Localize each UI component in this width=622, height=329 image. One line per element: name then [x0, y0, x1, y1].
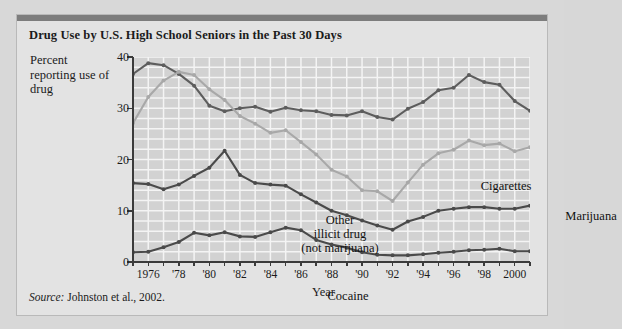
source-text: Johnston et al., 2002.: [64, 291, 165, 303]
x-tick-mark: [178, 262, 180, 266]
x-tick-mark: [209, 262, 211, 266]
x-tick-mark: [407, 262, 409, 266]
series-label-cigarettes: Cigarettes: [461, 179, 551, 194]
x-tick-mark: [346, 262, 348, 266]
source-note: Source: Johnston et al., 2002.: [29, 291, 165, 303]
x-tick-mark: [285, 262, 287, 266]
x-tick-mark: [422, 262, 424, 266]
x-tick-mark: [148, 262, 150, 266]
x-tick-mark: [193, 262, 195, 266]
figure-frame: Drug Use by U.S. High School Seniors in …: [16, 14, 548, 316]
series-label-other-line2: illicit drug: [314, 227, 366, 241]
x-tick-label: 2000: [495, 268, 535, 280]
x-tick-mark: [499, 262, 501, 266]
y-tick-label: 20: [89, 153, 129, 168]
y-tick-label: 40: [89, 50, 129, 65]
x-tick-mark: [239, 262, 241, 266]
x-tick-mark: [392, 262, 394, 266]
x-tick-mark: [483, 262, 485, 266]
page-title: Drug Use by U.S. High School Seniors in …: [29, 28, 342, 43]
x-tick-mark: [468, 262, 470, 266]
series-label-cocaine: Cocaine: [313, 289, 383, 304]
y-tick-label: 0: [89, 255, 129, 270]
x-tick-mark: [453, 262, 455, 266]
x-tick-mark: [224, 262, 226, 266]
plot-wrapper: 010203040 1976'78'80'82'84'86'88'90'92'9…: [117, 57, 530, 269]
x-tick-mark: [254, 262, 256, 266]
x-tick-mark: [438, 262, 440, 266]
x-tick-mark: [163, 262, 165, 266]
x-tick-mark: [270, 262, 272, 266]
x-tick-mark: [377, 262, 379, 266]
x-tick-mark: [331, 262, 333, 266]
series-label-other-illicit: Other illicit drug (not marijuana): [285, 213, 395, 255]
x-tick-mark: [361, 262, 363, 266]
x-tick-mark: [514, 262, 516, 266]
title-rule: [17, 15, 547, 21]
x-tick-mark: [132, 262, 134, 266]
series-label-other-line3: (not marijuana): [301, 241, 378, 255]
x-tick-mark: [315, 262, 317, 266]
series-label-other-line1: Other: [326, 213, 354, 227]
series-label-marijuana: Marijuana: [549, 209, 622, 224]
x-tick-mark: [300, 262, 302, 266]
y-tick-label: 10: [89, 204, 129, 219]
source-prefix: Source:: [29, 291, 64, 303]
y-tick-label: 30: [89, 101, 129, 116]
x-tick-mark: [529, 262, 531, 266]
